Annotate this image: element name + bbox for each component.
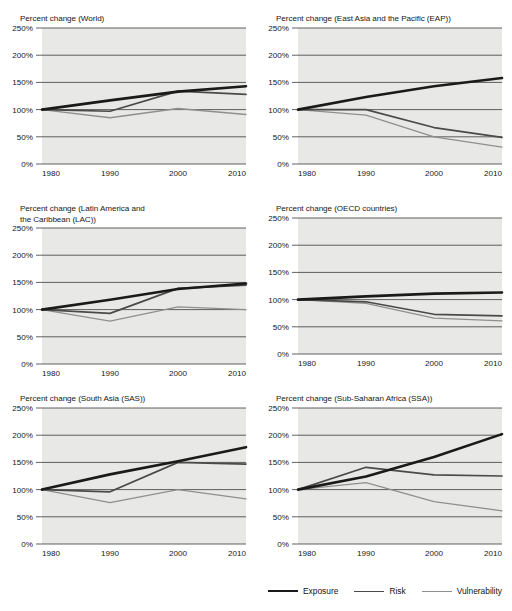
y-tick-label: 50% <box>273 323 289 332</box>
y-tick-label: 0% <box>277 160 289 169</box>
y-tick-label: 0% <box>277 350 289 359</box>
chart-panel-lac: Percent change (Latin America and the Ca… <box>0 198 256 394</box>
x-tick-label: 2000 <box>169 549 188 558</box>
x-tick-label: 1980 <box>298 549 317 558</box>
plot-area-world: 0%50%100%150%200%250%1980199020002010 <box>0 8 256 204</box>
x-tick-label: 2010 <box>228 549 247 558</box>
legend-label-exposure: Exposure <box>303 586 338 596</box>
x-tick-label: 2010 <box>228 369 247 378</box>
legend-label-vulnerability: Vulnerability <box>457 586 502 596</box>
figure-six-panel-percent-change: Percent change (World)0%50%100%150%200%2… <box>0 0 512 611</box>
y-tick-label: 200% <box>268 51 289 60</box>
plot-background <box>298 28 502 164</box>
x-tick-label: 1990 <box>357 549 376 558</box>
chart-panel-world: Percent change (World)0%50%100%150%200%2… <box>0 8 256 204</box>
x-tick-label: 2000 <box>425 359 444 368</box>
x-tick-label: 1980 <box>42 369 61 378</box>
plot-area-eap: 0%50%100%150%200%250%1980199020002010 <box>256 8 512 204</box>
x-tick-label: 2010 <box>484 549 503 558</box>
x-tick-label: 1990 <box>101 549 120 558</box>
y-tick-label: 250% <box>12 224 33 233</box>
y-tick-label: 50% <box>273 133 289 142</box>
chart-legend: ExposureRiskVulnerability <box>0 580 512 602</box>
x-tick-label: 1990 <box>357 359 376 368</box>
y-tick-label: 0% <box>277 540 289 549</box>
legend-swatch-risk <box>354 591 384 592</box>
plot-area-lac: 0%50%100%150%200%250%1980199020002010 <box>0 198 256 394</box>
y-tick-label: 0% <box>21 360 33 369</box>
y-tick-label: 200% <box>12 251 33 260</box>
y-tick-label: 150% <box>12 458 33 467</box>
plot-area-ssa: 0%50%100%150%200%250%1980199020002010 <box>256 388 512 584</box>
legend-item-risk: Risk <box>354 586 405 596</box>
x-tick-label: 1990 <box>101 169 120 178</box>
y-tick-label: 0% <box>21 160 33 169</box>
x-tick-label: 1980 <box>298 359 317 368</box>
x-tick-label: 1990 <box>101 369 120 378</box>
y-tick-label: 250% <box>268 24 289 33</box>
y-tick-label: 250% <box>268 214 289 223</box>
y-tick-label: 200% <box>12 431 33 440</box>
y-tick-label: 150% <box>268 268 289 277</box>
y-tick-label: 100% <box>12 306 33 315</box>
y-tick-label: 150% <box>12 278 33 287</box>
legend-item-exposure: Exposure <box>268 586 338 596</box>
legend-swatch-vulnerability <box>422 591 452 592</box>
y-tick-label: 0% <box>21 540 33 549</box>
y-tick-label: 100% <box>12 486 33 495</box>
x-tick-label: 2000 <box>425 169 444 178</box>
y-tick-label: 50% <box>17 133 33 142</box>
y-tick-label: 150% <box>268 458 289 467</box>
y-tick-label: 100% <box>268 106 289 115</box>
chart-panel-eap: Percent change (East Asia and the Pacifi… <box>256 8 512 204</box>
plot-area-oecd: 0%50%100%150%200%250%1980199020002010 <box>256 198 512 394</box>
y-tick-label: 150% <box>268 78 289 87</box>
y-tick-label: 100% <box>268 486 289 495</box>
y-tick-label: 150% <box>12 78 33 87</box>
y-tick-label: 100% <box>12 106 33 115</box>
y-tick-label: 200% <box>12 51 33 60</box>
y-tick-label: 200% <box>268 431 289 440</box>
legend-item-vulnerability: Vulnerability <box>422 586 502 596</box>
x-tick-label: 2010 <box>484 169 503 178</box>
chart-panel-oecd: Percent change (OECD countries)0%50%100%… <box>256 198 512 394</box>
x-tick-label: 2000 <box>169 169 188 178</box>
y-tick-label: 250% <box>268 404 289 413</box>
y-tick-label: 50% <box>273 513 289 522</box>
y-tick-label: 250% <box>12 404 33 413</box>
legend-swatch-exposure <box>268 590 298 592</box>
chart-panel-ssa: Percent change (Sub-Saharan Africa (SSA)… <box>256 388 512 584</box>
x-tick-label: 1980 <box>42 549 61 558</box>
plot-background <box>298 218 502 354</box>
chart-panel-sas: Percent change (South Asia (SAS))0%50%10… <box>0 388 256 584</box>
plot-background <box>42 228 246 364</box>
plot-background <box>42 408 246 544</box>
x-tick-label: 2000 <box>169 369 188 378</box>
x-tick-label: 1980 <box>298 169 317 178</box>
x-tick-label: 2010 <box>484 359 503 368</box>
y-tick-label: 100% <box>268 296 289 305</box>
y-tick-label: 50% <box>17 333 33 342</box>
x-tick-label: 2010 <box>228 169 247 178</box>
x-tick-label: 2000 <box>425 549 444 558</box>
x-tick-label: 1990 <box>357 169 376 178</box>
x-tick-label: 1980 <box>42 169 61 178</box>
y-tick-label: 200% <box>268 241 289 250</box>
y-tick-label: 50% <box>17 513 33 522</box>
legend-label-risk: Risk <box>389 586 405 596</box>
y-tick-label: 250% <box>12 24 33 33</box>
plot-area-sas: 0%50%100%150%200%250%1980199020002010 <box>0 388 256 584</box>
